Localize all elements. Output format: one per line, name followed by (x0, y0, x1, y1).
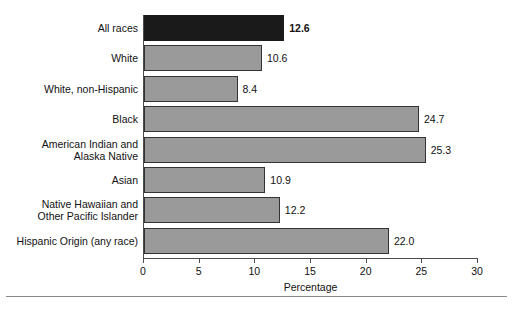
category-label-line: White (111, 52, 138, 64)
category-label: White, non-Hispanic (0, 76, 138, 102)
category-label-line: Other Pacific Islander (38, 210, 138, 222)
bar-value-label: 25.3 (431, 137, 451, 163)
category-label: Hispanic Origin (any race) (0, 228, 138, 254)
bar-value-label: 8.4 (243, 76, 258, 102)
x-tick-mark (421, 258, 422, 263)
x-tick-mark (366, 258, 367, 263)
bar-chart-figure: All races12.6White10.6White, non-Hispani… (0, 0, 513, 310)
bar-value-label: 10.6 (267, 45, 287, 71)
category-label-line: Asian (112, 174, 138, 186)
bar-value-label: 22.0 (394, 228, 414, 254)
category-label: All races (0, 15, 138, 41)
x-tick-mark (310, 258, 311, 263)
bar-row: Hispanic Origin (any race)22.0 (0, 228, 513, 254)
bar-value-label: 12.2 (285, 197, 305, 223)
x-tick-label: 30 (471, 265, 483, 277)
bar (144, 228, 389, 254)
category-label-line: Alaska Native (74, 150, 138, 162)
x-tick-label: 20 (360, 265, 372, 277)
bar-row: Native Hawaiian andOther Pacific Islande… (0, 197, 513, 223)
bar (144, 106, 419, 132)
bar (144, 137, 426, 163)
x-tick-label: 15 (304, 265, 316, 277)
category-label-line: White, non-Hispanic (44, 83, 138, 95)
bar-row: White10.6 (0, 45, 513, 71)
bar (144, 76, 238, 102)
x-axis-title: Percentage (143, 281, 478, 293)
x-tick-label: 0 (140, 265, 146, 277)
bar (144, 197, 280, 223)
bar (144, 45, 262, 71)
category-label: White (0, 45, 138, 71)
x-tick-label: 10 (248, 265, 260, 277)
bar-value-label: 10.9 (270, 167, 290, 193)
category-label-line: All races (98, 22, 138, 34)
bar-value-label: 24.7 (424, 106, 444, 132)
category-label: Black (0, 106, 138, 132)
bar-value-label: 12.6 (289, 15, 309, 41)
category-label: American Indian andAlaska Native (0, 137, 138, 163)
bar-row: Asian10.9 (0, 167, 513, 193)
x-tick-mark (143, 258, 144, 263)
bar (144, 15, 284, 41)
bar-row: Black24.7 (0, 106, 513, 132)
bar-row: White, non-Hispanic8.4 (0, 76, 513, 102)
category-label-line: Native Hawaiian and (42, 198, 138, 210)
x-tick-label: 5 (196, 265, 202, 277)
bar-row: All races12.6 (0, 15, 513, 41)
category-label: Asian (0, 167, 138, 193)
category-label-line: Hispanic Origin (any race) (17, 235, 138, 247)
category-label-line: American Indian and (42, 138, 138, 150)
bar-row: American Indian andAlaska Native25.3 (0, 137, 513, 163)
category-label: Native Hawaiian andOther Pacific Islande… (0, 197, 138, 223)
category-label-line: Black (112, 113, 138, 125)
x-tick-mark (254, 258, 255, 263)
y-axis-line (143, 15, 144, 259)
bar (144, 167, 265, 193)
footer-divider (6, 296, 507, 297)
x-tick-label: 25 (415, 265, 427, 277)
x-tick-mark (477, 258, 478, 263)
x-tick-mark (199, 258, 200, 263)
